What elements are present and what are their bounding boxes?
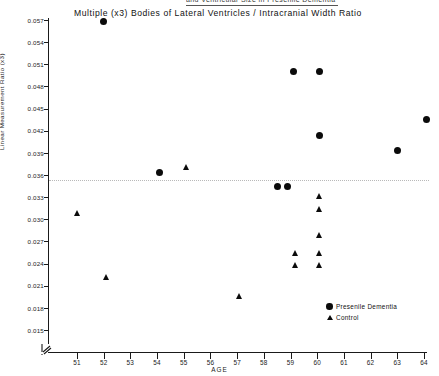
data-point-triangle: [292, 250, 298, 256]
y-tick-label: 0.045: [0, 105, 44, 112]
data-point-triangle: [316, 206, 322, 212]
legend-item-control: Control: [323, 312, 397, 323]
y-tick: [44, 308, 49, 309]
y-tick: [44, 64, 49, 65]
y-tick: [44, 153, 49, 154]
x-tick-label: 59: [287, 359, 295, 366]
x-tick-label: 57: [233, 359, 241, 366]
y-tick: [44, 241, 49, 242]
data-point-circle: [274, 183, 281, 190]
x-tick-label: 61: [340, 359, 348, 366]
data-point-circle: [290, 68, 297, 75]
x-tick-label: 56: [207, 359, 215, 366]
running-header-rule: [186, 5, 338, 6]
y-tick: [44, 175, 49, 176]
data-point-triangle: [236, 293, 242, 299]
reference-line: [49, 180, 429, 181]
y-tick: [44, 109, 49, 110]
legend-item-dementia: Presenile Dementia: [323, 301, 397, 312]
x-tick-label: 54: [153, 359, 161, 366]
data-point-circle: [284, 183, 291, 190]
y-tick-label: 0.039: [0, 150, 44, 157]
y-tick: [44, 330, 49, 331]
x-tick-label: 60: [313, 359, 321, 366]
y-tick-label: 0.051: [0, 61, 44, 68]
running-header-text: and Ventricular Size in Presenile Dement…: [186, 0, 335, 3]
data-point-triangle: [316, 193, 322, 199]
y-tick-label: 0.018: [0, 305, 44, 312]
data-point-triangle: [316, 262, 322, 268]
data-point-triangle: [292, 262, 298, 268]
y-tick-label: 0.048: [0, 83, 44, 90]
y-tick-label: 0.042: [0, 127, 44, 134]
y-tick: [44, 197, 49, 198]
y-tick: [44, 219, 49, 220]
figure-root: and Ventricular Size in Presenile Dement…: [0, 0, 439, 376]
running-page-header: and Ventricular Size in Presenile Dement…: [186, 0, 346, 7]
legend-label-control: Control: [336, 314, 359, 321]
x-tick-label: 58: [260, 359, 268, 366]
legend: Presenile Dementia Control: [323, 301, 397, 323]
y-tick-label: 0.015: [0, 327, 44, 334]
y-tick-label: 0.033: [0, 194, 44, 201]
x-tick-label: 64: [420, 359, 428, 366]
axis-break-icon: [41, 333, 63, 355]
x-tick-label: 55: [180, 359, 188, 366]
y-tick-label: 0.027: [0, 238, 44, 245]
data-point-triangle: [74, 210, 80, 216]
data-point-triangle: [316, 250, 322, 256]
y-tick: [44, 131, 49, 132]
y-tick: [44, 20, 49, 21]
y-tick-label: 0.057: [0, 17, 44, 24]
y-tick: [44, 286, 49, 287]
x-tick-label: 62: [367, 359, 375, 366]
y-tick-label: 0.030: [0, 216, 44, 223]
y-tick-label: 0.021: [0, 282, 44, 289]
y-tick: [44, 86, 49, 87]
circle-marker-icon: [323, 303, 336, 310]
x-tick-label: 52: [100, 359, 108, 366]
x-tick-label: 53: [127, 359, 135, 366]
chart-title: Multiple (x3) Bodies of Lateral Ventricl…: [74, 8, 362, 18]
data-point-triangle: [316, 232, 322, 238]
y-tick-label: 0.054: [0, 39, 44, 46]
triangle-marker-icon: [323, 315, 336, 320]
data-point-triangle: [103, 274, 109, 280]
y-tick-label: 0.036: [0, 172, 44, 179]
y-tick: [44, 264, 49, 265]
data-point-circle: [394, 147, 401, 154]
x-tick-label: 51: [73, 359, 81, 366]
legend-label-dementia: Presenile Dementia: [336, 303, 397, 310]
y-tick-label: 0.024: [0, 260, 44, 267]
data-point-triangle: [183, 164, 189, 170]
y-tick: [44, 42, 49, 43]
x-axis-title: AGE: [0, 366, 439, 373]
x-tick-label: 63: [394, 359, 402, 366]
